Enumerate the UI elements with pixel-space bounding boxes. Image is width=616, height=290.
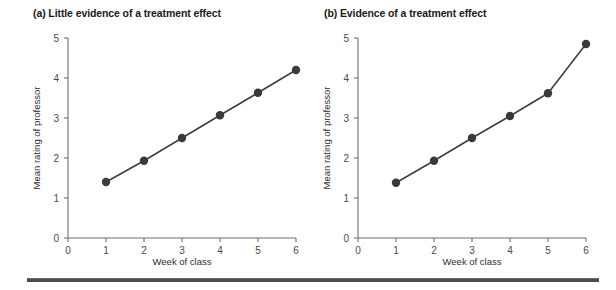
data-point-marker — [582, 40, 590, 48]
x-tick-label: 4 — [217, 245, 223, 256]
data-point-marker — [254, 89, 262, 97]
x-tick-label: 3 — [179, 245, 185, 256]
panel-b-x-ticks: 0123456 — [355, 238, 589, 256]
panel-a-series-line — [106, 70, 296, 182]
panel-b-x-axis-title: Week of class — [443, 256, 502, 267]
panel-b-series-line — [396, 44, 586, 183]
y-tick-label: 1 — [53, 193, 59, 204]
y-tick-label: 5 — [53, 33, 59, 44]
panel-a-plot: 012345 0123456 Week of class Mean rating… — [0, 0, 308, 268]
y-tick-label: 0 — [53, 233, 59, 244]
panel-b-y-ticks: 012345 — [343, 33, 358, 244]
y-tick-label: 4 — [53, 73, 59, 84]
data-point-marker — [392, 179, 400, 187]
panel-b-plot: 012345 0123456 Week of class Mean rating… — [300, 0, 616, 268]
data-point-marker — [506, 112, 514, 120]
data-point-marker — [102, 178, 110, 186]
x-tick-label: 5 — [255, 245, 261, 256]
y-tick-label: 0 — [343, 233, 349, 244]
data-point-marker — [292, 66, 300, 74]
x-tick-label: 5 — [545, 245, 551, 256]
chart-panel-b: (b) Evidence of a treatment effect 01234… — [300, 0, 608, 268]
y-tick-label: 4 — [343, 73, 349, 84]
y-tick-label: 5 — [343, 33, 349, 44]
panel-b-y-axis-title: Mean rating of professor — [321, 87, 332, 190]
y-tick-label: 3 — [53, 113, 59, 124]
data-point-marker — [468, 134, 476, 142]
panel-a-x-axis-title: Week of class — [153, 256, 212, 267]
panel-a-y-axis-title: Mean rating of professor — [31, 87, 42, 190]
panel-a-y-ticks: 012345 — [53, 33, 68, 244]
y-tick-label: 3 — [343, 113, 349, 124]
chart-panel-a: (a) Little evidence of a treatment effec… — [0, 0, 308, 268]
x-tick-label: 6 — [583, 245, 589, 256]
x-tick-label: 1 — [393, 245, 399, 256]
data-point-marker — [140, 157, 148, 165]
x-tick-label: 0 — [65, 245, 71, 256]
footer-divider — [27, 278, 599, 282]
panel-a-x-ticks: 0123456 — [65, 238, 299, 256]
y-tick-label: 2 — [343, 153, 349, 164]
panel-b-series-markers — [392, 40, 590, 187]
data-point-marker — [430, 157, 438, 165]
x-tick-label: 1 — [103, 245, 109, 256]
x-tick-label: 2 — [431, 245, 437, 256]
x-tick-label: 4 — [507, 245, 513, 256]
figure-container: (a) Little evidence of a treatment effec… — [0, 0, 616, 290]
data-point-marker — [178, 134, 186, 142]
y-tick-label: 2 — [53, 153, 59, 164]
data-point-marker — [216, 111, 224, 119]
y-tick-label: 1 — [343, 193, 349, 204]
x-tick-label: 6 — [293, 245, 299, 256]
x-tick-label: 0 — [355, 245, 361, 256]
x-tick-label: 3 — [469, 245, 475, 256]
x-tick-label: 2 — [141, 245, 147, 256]
data-point-marker — [544, 89, 552, 97]
